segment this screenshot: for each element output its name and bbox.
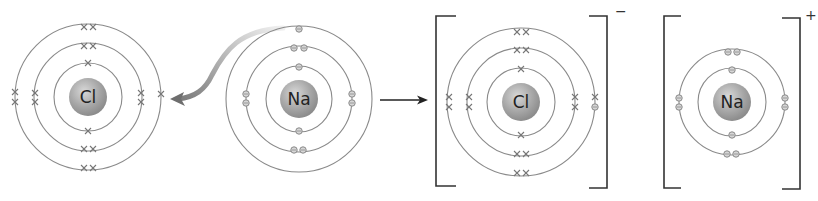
chloride-ion: − Cl bbox=[436, 3, 627, 188]
ionic-bond-diagram: Cl Na bbox=[0, 0, 818, 201]
sodium-symbol: Na bbox=[287, 89, 310, 109]
charge-minus: − bbox=[615, 3, 627, 19]
chlorine-symbol: Cl bbox=[80, 87, 97, 107]
sodium-atom: Na bbox=[226, 26, 372, 172]
sodium-ion-symbol: Na bbox=[720, 92, 743, 112]
sodium-ion: + Na bbox=[664, 7, 817, 189]
right-bracket bbox=[589, 16, 607, 188]
left-bracket bbox=[436, 16, 456, 186]
charge-plus: + bbox=[805, 7, 817, 23]
reaction-arrow bbox=[380, 96, 428, 105]
chloride-symbol: Cl bbox=[513, 92, 530, 112]
chlorine-atom: Cl bbox=[12, 24, 164, 171]
